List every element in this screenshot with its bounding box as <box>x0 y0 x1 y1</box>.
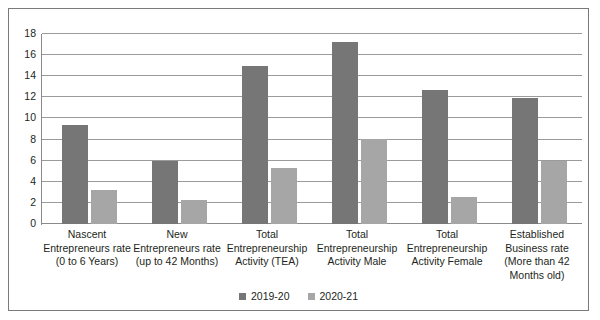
legend-swatch-icon <box>308 293 315 300</box>
category-label-line: Activity Female <box>402 255 492 269</box>
legend-label: 2020-21 <box>320 290 359 302</box>
category-label-line: Established <box>492 228 582 242</box>
category-label-line: (0 to 6 Years) <box>42 255 132 269</box>
bar-group <box>132 34 222 224</box>
bar-2020-21[interactable] <box>271 168 297 224</box>
bar-group <box>312 34 402 224</box>
category-label-line: Activity (TEA) <box>222 255 312 269</box>
legend-swatch-icon <box>239 293 246 300</box>
category-label-line: New <box>132 228 222 242</box>
category-label: TotalEntrepreneurshipActivity (TEA) <box>222 228 312 269</box>
bar-group <box>222 34 312 224</box>
y-axis-tick-label: 10 <box>24 112 36 123</box>
bar-group <box>492 34 582 224</box>
category-label-line: Total <box>312 228 402 242</box>
bar-group <box>42 34 132 224</box>
bar-2019-20[interactable] <box>152 161 178 224</box>
category-label-line: Entrepreneurs rate <box>132 242 222 256</box>
y-axis-tick-label: 12 <box>24 91 36 102</box>
category-label-line: Entrepreneurs rate <box>42 242 132 256</box>
legend-label: 2019-20 <box>251 290 290 302</box>
category-label-line: Entrepreneurship <box>222 242 312 256</box>
bar-2019-20[interactable] <box>422 90 448 224</box>
bar-2020-21[interactable] <box>541 161 567 224</box>
legend-item-2019-20[interactable]: 2019-20 <box>239 290 290 302</box>
category-label: EstablishedBusiness rate(More than 42Mon… <box>492 228 582 282</box>
bar-2020-21[interactable] <box>451 197 477 224</box>
category-axis-labels: NascentEntrepreneurs rate(0 to 6 Years)N… <box>42 228 582 290</box>
plot-area: 024681012141618 <box>42 34 582 224</box>
category-label-line: Entrepreneurship <box>312 242 402 256</box>
category-label: NewEntrepreneurs rate(up to 42 Months) <box>132 228 222 269</box>
y-axis-tick-label: 4 <box>30 176 36 187</box>
y-axis-tick-label: 14 <box>24 70 36 81</box>
category-label-line: Entrepreneurship <box>402 242 492 256</box>
category-label-line: Activity Male <box>312 255 402 269</box>
category-label-line: Months old) <box>492 269 582 283</box>
bar-2019-20[interactable] <box>62 125 88 224</box>
chart-container: 024681012141618 NascentEntrepreneurs rat… <box>8 8 589 311</box>
bar-group <box>402 34 492 224</box>
category-label-line: Business rate <box>492 242 582 256</box>
y-axis-tick-label: 8 <box>30 133 36 144</box>
category-label: NascentEntrepreneurs rate(0 to 6 Years) <box>42 228 132 269</box>
category-label-line: Nascent <box>42 228 132 242</box>
category-label: TotalEntrepreneurshipActivity Male <box>312 228 402 269</box>
category-label: TotalEntrepreneurshipActivity Female <box>402 228 492 269</box>
y-axis-tick-label: 16 <box>24 49 36 60</box>
y-axis-tick-label: 18 <box>24 28 36 39</box>
legend-item-2020-21[interactable]: 2020-21 <box>308 290 359 302</box>
category-label-line: Total <box>402 228 492 242</box>
bar-2020-21[interactable] <box>361 139 387 225</box>
chart-legend: 2019-202020-21 <box>9 290 588 302</box>
category-label-line: Total <box>222 228 312 242</box>
bar-2020-21[interactable] <box>91 190 117 224</box>
y-axis-tick-label: 0 <box>30 218 36 229</box>
bar-2019-20[interactable] <box>332 42 358 224</box>
bar-2019-20[interactable] <box>512 98 538 224</box>
category-label-line: (More than 42 <box>492 255 582 269</box>
y-axis-tick-label: 6 <box>30 154 36 165</box>
category-label-line: (up to 42 Months) <box>132 255 222 269</box>
y-axis-tick-label: 2 <box>30 197 36 208</box>
bar-2020-21[interactable] <box>181 200 207 224</box>
bar-2019-20[interactable] <box>242 66 268 224</box>
